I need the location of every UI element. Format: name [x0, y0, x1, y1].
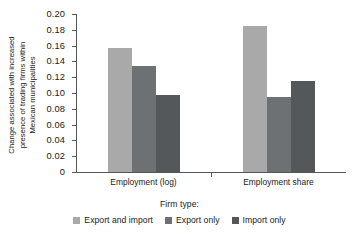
y-tick-label: 0.14: [47, 56, 66, 66]
legend-item[interactable]: Import only: [232, 215, 286, 225]
bar: [267, 97, 291, 172]
y-axis-title-line-1: Change associated with increased: [7, 2, 18, 188]
legend-swatch-icon: [73, 217, 80, 224]
y-tick-label: 0.18: [47, 25, 66, 35]
y-tick-label: 0.02: [47, 151, 66, 161]
legend-swatch-icon: [232, 217, 239, 224]
y-tick-label: 0: [60, 167, 65, 177]
y-axis-title: Change associated with increased presenc…: [0, 0, 46, 190]
bar: [243, 26, 267, 172]
bar-series-group: [76, 14, 346, 172]
bar: [132, 66, 156, 172]
chart-legend: Export and importExport onlyImport only: [0, 215, 359, 225]
y-tick: 0: [72, 172, 76, 173]
bar: [156, 95, 180, 172]
x-axis-category-label: Employment (log): [76, 177, 211, 187]
x-axis-group-divider-tick: [211, 172, 212, 177]
y-tick-label: 0.16: [47, 41, 66, 51]
legend-item[interactable]: Export and import: [73, 215, 153, 225]
legend-label: Export and import: [84, 215, 153, 225]
y-tick-label: 0.04: [47, 135, 66, 145]
legend-swatch-icon: [165, 217, 172, 224]
x-axis-category-label: Employment share: [211, 177, 346, 187]
plot-area: 00.020.040.060.080.100.120.140.160.180.2…: [76, 14, 346, 172]
y-tick-label: 0.10: [47, 88, 66, 98]
legend-label: Import only: [243, 215, 286, 225]
y-tick-label: 0.08: [47, 104, 66, 114]
bar: [291, 81, 315, 172]
bar: [108, 48, 132, 172]
legend-label: Export only: [176, 215, 220, 225]
y-axis-title-line-2: presence of trading firms within: [18, 2, 29, 188]
y-tick-label: 0.12: [47, 72, 66, 82]
x-axis-title: Firm type:: [0, 199, 359, 209]
y-axis-title-line-3: Mexican municipalities: [28, 2, 39, 188]
bar-chart: Change associated with increased presenc…: [0, 0, 359, 236]
y-tick-label: 0.20: [47, 9, 66, 19]
y-tick-label: 0.06: [47, 120, 66, 130]
legend-item[interactable]: Export only: [165, 215, 220, 225]
